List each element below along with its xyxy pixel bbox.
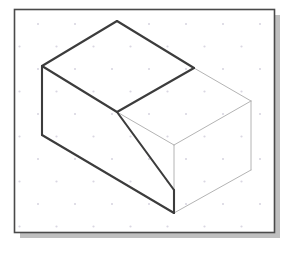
grid-dot xyxy=(74,23,76,25)
grid-dot xyxy=(74,203,76,205)
grid-dot xyxy=(129,180,131,182)
grid-dot xyxy=(240,180,242,182)
grid-dot xyxy=(37,158,39,160)
grid-dot xyxy=(111,113,113,115)
grid-dot xyxy=(92,45,94,47)
grid-dot xyxy=(222,203,224,205)
grid-dot xyxy=(148,203,150,205)
grid-dot xyxy=(185,23,187,25)
grid-dot xyxy=(259,158,261,160)
grid-dot xyxy=(55,45,57,47)
grid-dot xyxy=(37,23,39,25)
grid-dot xyxy=(18,45,20,47)
grid-dot xyxy=(111,68,113,70)
grid-dot xyxy=(222,113,224,115)
grid-dot xyxy=(129,45,131,47)
grid-dot xyxy=(55,180,57,182)
grid-dot xyxy=(166,225,168,227)
grid-dot xyxy=(92,180,94,182)
grid-dot xyxy=(55,225,57,227)
grid-dot xyxy=(240,45,242,47)
grid-dot xyxy=(74,113,76,115)
drawing-border xyxy=(15,10,275,233)
grid-dot xyxy=(148,23,150,25)
grid-dot xyxy=(18,180,20,182)
grid-dot xyxy=(166,45,168,47)
grid-dot xyxy=(222,68,224,70)
grid-dot xyxy=(203,180,205,182)
grid-dot xyxy=(55,90,57,92)
grid-dot xyxy=(18,225,20,227)
grid-dot xyxy=(166,135,168,137)
grid-dot xyxy=(74,68,76,70)
grid-dot xyxy=(18,90,20,92)
grid-dot xyxy=(240,225,242,227)
grid-dot xyxy=(203,45,205,47)
grid-dot xyxy=(259,203,261,205)
grid-dot xyxy=(92,225,94,227)
grid-dot xyxy=(259,68,261,70)
grid-dot xyxy=(166,90,168,92)
grid-dot xyxy=(148,113,150,115)
grid-dot xyxy=(259,113,261,115)
grid-dot xyxy=(18,135,20,137)
grid-dot xyxy=(129,225,131,227)
grid-dot xyxy=(37,203,39,205)
grid-dot xyxy=(203,135,205,137)
isometric-drawing-figure xyxy=(0,0,287,253)
grid-dot xyxy=(259,23,261,25)
grid-dot xyxy=(185,68,187,70)
grid-dot xyxy=(148,68,150,70)
grid-dot xyxy=(37,68,39,70)
grid-dot xyxy=(185,113,187,115)
grid-dot xyxy=(222,158,224,160)
grid-dot xyxy=(111,203,113,205)
grid-dot xyxy=(185,203,187,205)
figure-canvas xyxy=(0,0,287,253)
grid-dot xyxy=(240,90,242,92)
grid-dot xyxy=(222,23,224,25)
grid-dot xyxy=(111,158,113,160)
grid-dot xyxy=(92,135,94,137)
grid-dot xyxy=(37,113,39,115)
grid-dot xyxy=(203,90,205,92)
grid-dot xyxy=(74,158,76,160)
grid-dot xyxy=(129,90,131,92)
grid-dot xyxy=(129,135,131,137)
grid-dot xyxy=(55,135,57,137)
grid-dot xyxy=(203,225,205,227)
grid-dot xyxy=(185,158,187,160)
grid-dot xyxy=(240,135,242,137)
grid-dot xyxy=(92,90,94,92)
